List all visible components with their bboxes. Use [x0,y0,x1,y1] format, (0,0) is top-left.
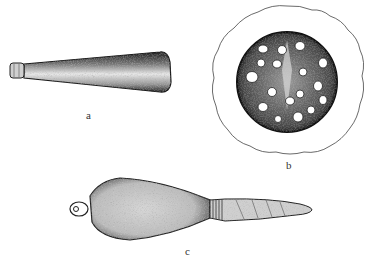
object-c [70,178,312,240]
panel-label-a: a [86,110,91,121]
object-b [212,6,363,154]
figure-canvas: a b c [0,0,374,266]
object-a [10,52,171,92]
illustration [0,0,374,266]
panel-label-c: c [185,246,190,257]
panel-label-b: b [286,160,292,171]
